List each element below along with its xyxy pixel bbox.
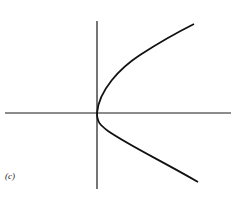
figure-label: (c) (5, 171, 15, 181)
parabola-lower-branch (97, 113, 198, 182)
parabola-upper-branch (97, 24, 194, 113)
parabola-diagram (0, 0, 231, 199)
